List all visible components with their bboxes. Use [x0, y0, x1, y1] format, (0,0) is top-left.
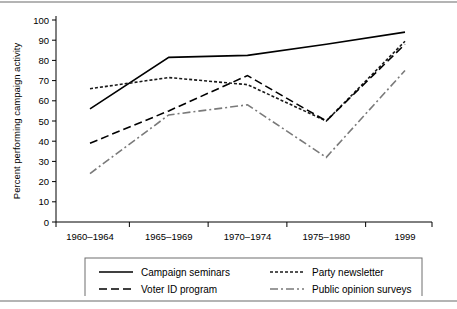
- y-tick-label: 60: [38, 95, 49, 106]
- x-tick-label: 1999: [394, 231, 415, 242]
- y-tick-label: 10: [38, 196, 49, 207]
- chart-plot-area: 0102030405060708090100Percent performing…: [0, 8, 457, 296]
- legend-label-public-opinion-surveys: Public opinion surveys: [312, 284, 412, 295]
- legend-label-campaign-seminars: Campaign seminars: [141, 267, 230, 278]
- y-tick-label: 0: [44, 217, 49, 228]
- x-tick-label: 1965–1969: [145, 231, 193, 242]
- x-tick-label: 1970–1974: [224, 231, 272, 242]
- line-chart: 0102030405060708090100Percent performing…: [0, 8, 457, 296]
- bottom-divider-rule: [0, 300, 457, 302]
- x-tick-label: 1960–1964: [66, 231, 114, 242]
- series-line-voter-id-program: [90, 44, 405, 143]
- legend-label-voter-id-program: Voter ID program: [141, 284, 217, 295]
- y-tick-label: 40: [38, 136, 49, 147]
- y-tick-label: 50: [38, 116, 49, 127]
- figure-container: 0102030405060708090100Percent performing…: [0, 0, 457, 309]
- y-tick-label: 90: [38, 35, 49, 46]
- legend-label-party-newsletter: Party newsletter: [312, 267, 384, 278]
- series-line-public-opinion-surveys: [90, 71, 405, 174]
- y-tick-label: 30: [38, 156, 49, 167]
- series-line-campaign-seminars: [90, 32, 405, 109]
- x-tick-label: 1975–1980: [302, 231, 350, 242]
- top-divider-rule: [0, 1, 457, 3]
- y-axis-title: Percent performing campaign activity: [11, 43, 22, 200]
- y-tick-label: 70: [38, 75, 49, 86]
- y-tick-label: 100: [33, 15, 49, 26]
- y-tick-label: 20: [38, 176, 49, 187]
- series-line-party-newsletter: [90, 41, 405, 121]
- y-tick-label: 80: [38, 55, 49, 66]
